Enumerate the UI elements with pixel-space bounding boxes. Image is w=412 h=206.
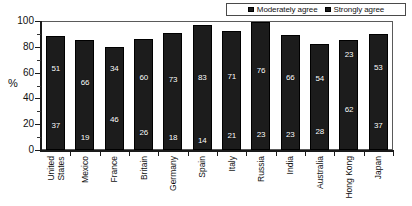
x-axis-label-united-states: UnitedStates [47, 156, 66, 181]
legend-item-moderately-agree: Moderately agree [248, 6, 318, 14]
y-tick-label-20: 20 [10, 119, 34, 129]
bar-value-moderately-agree: 73 [169, 76, 178, 84]
bar-segment-strongly-agree: 14 [193, 132, 212, 150]
bar-germany: 7318 [163, 33, 182, 150]
bar-australia: 5428 [310, 44, 329, 150]
bar-segment-moderately-agree: 66 [75, 40, 94, 125]
bar-value-strongly-agree: 19 [81, 134, 90, 142]
bar-slot: 6026 [129, 21, 158, 150]
bar-value-moderately-agree: 83 [198, 74, 207, 82]
bar-mexico: 6619 [75, 40, 94, 150]
bar-britain: 6026 [134, 39, 153, 150]
x-axis-label-france: France [110, 156, 120, 182]
bar-value-strongly-agree: 21 [227, 132, 236, 140]
bar-hong-kong: 2362 [339, 40, 358, 150]
bar-value-strongly-agree: 23 [257, 131, 266, 139]
legend-label-strongly-agree: Strongly agree [334, 6, 385, 14]
bar-segment-strongly-agree: 26 [134, 116, 153, 150]
y-tick-label-100: 100 [10, 16, 34, 26]
bar-segment-moderately-agree: 66 [281, 35, 300, 120]
bar-slot: 6623 [276, 21, 305, 150]
bar-united-states: 5137 [46, 36, 65, 150]
bar-segment-moderately-agree: 73 [163, 33, 182, 127]
bar-slot: 7318 [158, 21, 187, 150]
bar-segment-moderately-agree: 34 [105, 47, 124, 91]
y-tick-label-40: 40 [10, 93, 34, 103]
y-tick-label-0: 0 [10, 145, 34, 155]
bar-value-strongly-agree: 14 [198, 137, 207, 145]
bar-segment-moderately-agree: 76 [251, 22, 270, 120]
bar-value-strongly-agree: 28 [315, 128, 324, 136]
bar-segment-strongly-agree: 21 [222, 123, 241, 150]
bar-value-moderately-agree: 51 [51, 65, 60, 73]
bar-france: 3446 [105, 47, 124, 150]
bar-russia: 7623 [251, 22, 270, 150]
x-axis-label-britain: Britain [140, 156, 150, 180]
bar-value-moderately-agree: 23 [345, 51, 354, 59]
x-axis-label-india: India [286, 156, 296, 174]
bar-segment-strongly-agree: 28 [310, 114, 329, 150]
bar-segment-moderately-agree: 71 [222, 31, 241, 123]
bar-segment-moderately-agree: 53 [369, 34, 388, 102]
bar-value-strongly-agree: 46 [110, 116, 119, 124]
bar-value-moderately-agree: 66 [81, 79, 90, 87]
bar-value-moderately-agree: 60 [139, 74, 148, 82]
bar-segment-strongly-agree: 18 [163, 127, 182, 150]
y-tick-label-80: 80 [10, 42, 34, 52]
bar-value-strongly-agree: 37 [374, 122, 383, 130]
chart-legend: Moderately agree Strongly agree [226, 3, 406, 16]
bar-slot: 2362 [334, 21, 363, 150]
bar-segment-strongly-agree: 19 [75, 126, 94, 151]
bar-segment-strongly-agree: 62 [339, 70, 358, 150]
bar-segment-strongly-agree: 23 [281, 120, 300, 150]
bar-japan: 5337 [369, 34, 388, 150]
bar-slot: 5137 [41, 21, 70, 150]
bar-value-strongly-agree: 37 [51, 122, 60, 130]
x-axis-label-mexico: Mexico [81, 156, 91, 183]
bar-segment-moderately-agree: 54 [310, 44, 329, 114]
bar-value-strongly-agree: 62 [345, 106, 354, 114]
x-axis-label-hong-kong: Hong Kong [345, 156, 355, 199]
x-axis-label-italy: Italy [228, 156, 238, 172]
bar-value-moderately-agree: 66 [286, 74, 295, 82]
bar-value-moderately-agree: 71 [227, 73, 236, 81]
legend-label-moderately-agree: Moderately agree [257, 6, 318, 14]
bar-value-moderately-agree: 53 [374, 64, 383, 72]
bar-slot: 7121 [217, 21, 246, 150]
stacked-bar-chart: Moderately agree Strongly agree 10080604… [0, 0, 412, 206]
bar-value-strongly-agree: 26 [139, 129, 148, 137]
bar-slot: 5428 [305, 21, 334, 150]
bar-segment-strongly-agree: 23 [251, 120, 270, 150]
bar-segment-strongly-agree: 37 [46, 102, 65, 150]
x-axis-labels: UnitedStatesMexicoFranceBritainGermanySp… [41, 156, 393, 206]
x-axis-label-spain: Spain [198, 156, 208, 178]
bar-value-moderately-agree: 34 [110, 65, 119, 73]
y-axis-title: % [8, 78, 18, 89]
bar-value-moderately-agree: 54 [315, 75, 324, 83]
bar-slot: 8314 [188, 21, 217, 150]
bar-spain: 8314 [193, 25, 212, 150]
bar-slot: 6619 [70, 21, 99, 150]
bar-italy: 7121 [222, 31, 241, 150]
bar-segment-moderately-agree: 60 [134, 39, 153, 116]
bar-segment-moderately-agree: 83 [193, 25, 212, 132]
bar-segment-strongly-agree: 37 [369, 102, 388, 150]
bar-slot: 5337 [364, 21, 393, 150]
x-axis-label-russia: Russia [257, 156, 267, 182]
bar-value-moderately-agree: 76 [257, 67, 266, 75]
bar-slot: 7623 [246, 21, 275, 150]
bars-layer: 5137661934466026731883147121762366235428… [41, 21, 393, 150]
bar-segment-moderately-agree: 51 [46, 36, 65, 102]
legend-swatch-strongly-agree-icon [325, 7, 331, 12]
bar-slot: 3446 [100, 21, 129, 150]
bar-india: 6623 [281, 35, 300, 150]
x-axis-label-germany: Germany [169, 156, 179, 191]
bar-segment-strongly-agree: 46 [105, 91, 124, 150]
bar-value-strongly-agree: 18 [169, 134, 178, 142]
x-axis-label-japan: Japan [374, 156, 384, 179]
bar-value-strongly-agree: 23 [286, 131, 295, 139]
x-tick [393, 151, 394, 156]
legend-swatch-moderately-agree-icon [248, 7, 254, 12]
legend-item-strongly-agree: Strongly agree [325, 6, 385, 14]
y-tick-0 [35, 150, 41, 151]
